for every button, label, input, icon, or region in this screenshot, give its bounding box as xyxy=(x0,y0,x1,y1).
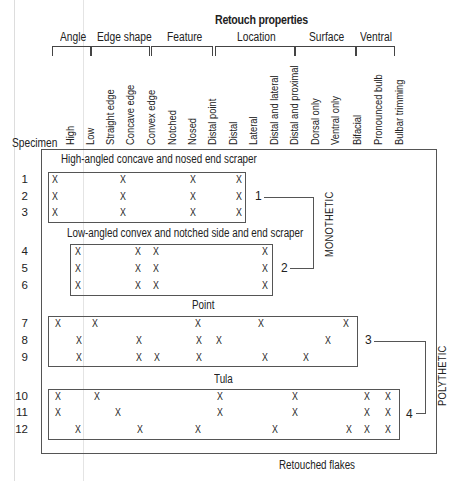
column-header: Distal and proximal xyxy=(288,65,300,145)
presence-mark: X xyxy=(217,390,223,402)
connector xyxy=(374,341,425,342)
connector xyxy=(313,197,314,269)
specimen-number: 2 xyxy=(8,190,28,202)
presence-mark: X xyxy=(55,317,61,329)
column-header: Bifacial xyxy=(351,115,363,145)
column-header: Bulbar trimming xyxy=(393,80,405,145)
specimen-number: 8 xyxy=(8,334,28,346)
presence-mark: X xyxy=(55,406,61,418)
presence-mark: X xyxy=(94,390,100,402)
cluster-1-title: High-angled concave and nosed end scrape… xyxy=(61,152,257,166)
column-header: Dorsal only xyxy=(309,98,321,145)
presence-mark: X xyxy=(262,279,268,291)
presence-mark: X xyxy=(75,262,81,274)
column-header: Pronounced bulb xyxy=(372,74,384,145)
connector xyxy=(416,413,426,414)
presence-mark: X xyxy=(52,173,58,185)
outer-label: Retouched flakes xyxy=(279,458,355,472)
presence-mark: X xyxy=(136,334,142,346)
presence-mark: X xyxy=(216,334,222,346)
monothetic-label: MONOTHETIC xyxy=(323,192,335,257)
specimen-number: 3 xyxy=(8,206,28,218)
column-header: Ventral only xyxy=(329,96,341,145)
presence-mark: X xyxy=(55,390,61,402)
cluster-3-title: Point xyxy=(192,298,214,312)
specimen-number: 10 xyxy=(8,390,28,402)
presence-mark: X xyxy=(136,351,142,363)
specimen-number: 4 xyxy=(8,245,28,257)
specimen-label: Specimen xyxy=(12,136,57,150)
column-group-label: Location xyxy=(237,30,276,44)
specimen-number: 1 xyxy=(8,173,28,185)
specimen-number: 11 xyxy=(8,406,28,418)
presence-mark: X xyxy=(75,423,81,435)
column-header: Lateral xyxy=(247,116,259,145)
column-header: Distal point xyxy=(206,99,218,145)
presence-mark: X xyxy=(115,406,121,418)
presence-mark: X xyxy=(195,423,201,435)
presence-mark: X xyxy=(190,206,196,218)
presence-mark: X xyxy=(135,279,141,291)
presence-mark: X xyxy=(236,173,242,185)
connector xyxy=(425,341,426,413)
presence-mark: X xyxy=(292,406,298,418)
presence-mark: X xyxy=(135,262,141,274)
connector xyxy=(264,197,314,198)
presence-mark: X xyxy=(272,423,278,435)
presence-mark: X xyxy=(153,262,159,274)
column-header: Concave edge xyxy=(124,85,136,145)
presence-mark: X xyxy=(385,423,391,435)
presence-mark: X xyxy=(196,334,202,346)
presence-mark: X xyxy=(120,190,126,202)
presence-mark: X xyxy=(303,351,309,363)
presence-mark: X xyxy=(196,351,202,363)
presence-mark: X xyxy=(217,406,223,418)
column-group-bracket xyxy=(52,46,91,56)
cluster-1-box xyxy=(48,172,246,223)
presence-mark: X xyxy=(364,423,370,435)
presence-mark: X xyxy=(364,406,370,418)
presence-mark: X xyxy=(52,190,58,202)
column-header: High xyxy=(64,126,76,145)
presence-mark: X xyxy=(195,317,201,329)
presence-mark: X xyxy=(120,173,126,185)
column-header: Nosed xyxy=(186,118,198,145)
column-header: Notched xyxy=(166,110,178,145)
specimen-number: 7 xyxy=(8,317,28,329)
cluster-2-number: 2 xyxy=(281,261,288,275)
column-group-label: Edge shape xyxy=(97,30,152,44)
column-group-label: Ventral xyxy=(360,30,392,44)
presence-mark: X xyxy=(135,245,141,257)
presence-mark: X xyxy=(262,245,268,257)
presence-mark: X xyxy=(153,279,159,291)
presence-mark: X xyxy=(75,279,81,291)
presence-mark: X xyxy=(120,206,126,218)
presence-mark: X xyxy=(76,334,82,346)
presence-mark: X xyxy=(75,245,81,257)
presence-mark: X xyxy=(385,406,391,418)
column-group-label: Surface xyxy=(309,30,344,44)
presence-mark: X xyxy=(52,206,58,218)
polythetic-label: POLYTHETIC xyxy=(436,345,448,406)
presence-mark: X xyxy=(262,262,268,274)
presence-mark: X xyxy=(292,390,298,402)
presence-mark: X xyxy=(137,423,143,435)
presence-mark: X xyxy=(190,190,196,202)
presence-mark: X xyxy=(76,351,82,363)
cluster-4-title: Tula xyxy=(214,372,233,386)
cluster-1-number: 1 xyxy=(255,189,262,203)
presence-mark: X xyxy=(364,390,370,402)
column-header: Convex edge xyxy=(145,90,157,145)
presence-mark: X xyxy=(236,206,242,218)
presence-mark: X xyxy=(262,351,268,363)
connector xyxy=(290,268,314,269)
column-group-bracket xyxy=(215,46,295,56)
specimen-number: 6 xyxy=(8,279,28,291)
presence-mark: X xyxy=(153,245,159,257)
column-header: Distal xyxy=(227,122,239,145)
presence-mark: X xyxy=(325,334,331,346)
presence-mark: X xyxy=(343,317,349,329)
column-group-bracket xyxy=(151,46,213,56)
column-header: Straight edge xyxy=(104,89,116,145)
cluster-2-title: Low-angled convex and notched side and e… xyxy=(67,226,303,240)
